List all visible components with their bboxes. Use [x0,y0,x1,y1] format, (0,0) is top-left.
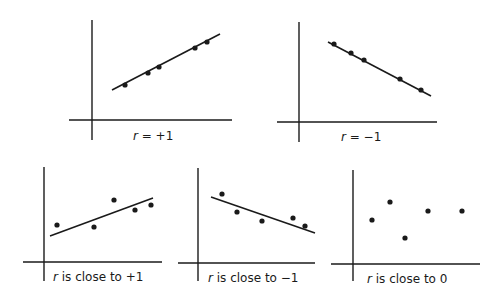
data-point [348,50,353,55]
scatter-diagrams [0,0,501,302]
data-point [369,217,374,222]
data-point [402,235,407,240]
panel-perfect-positive [69,20,232,140]
fit-line [211,197,315,233]
data-point [132,207,137,212]
data-point [331,41,336,46]
label-close-to-zero: r is close to 0 [367,272,447,286]
fit-line [50,198,153,236]
data-point [418,87,423,92]
fit-line [328,42,431,96]
data-point [387,199,392,204]
data-point [302,223,307,228]
data-point [259,218,264,223]
data-point [290,215,295,220]
data-point [204,39,209,44]
data-point [91,224,96,229]
data-point [361,57,366,62]
data-point [192,45,197,50]
panel-close-to-positive-one [23,167,162,281]
data-point [122,82,127,87]
panel-close-to-negative-one [178,168,315,281]
fit-line [112,34,220,90]
data-point [145,70,150,75]
data-point [459,208,464,213]
panel-perfect-negative [277,22,437,142]
label-perfect-negative: r = −1 [341,130,381,144]
panel-close-to-zero [331,170,480,281]
label-close-to-positive-one: r is close to +1 [53,270,143,284]
data-point [397,76,402,81]
data-point [234,209,239,214]
data-point [54,222,59,227]
data-point [156,64,161,69]
data-point [111,197,116,202]
data-point [148,202,153,207]
data-point [219,191,224,196]
data-point [425,208,430,213]
label-perfect-positive: r = +1 [133,129,173,143]
label-close-to-negative-one: r is close to −1 [208,271,298,285]
